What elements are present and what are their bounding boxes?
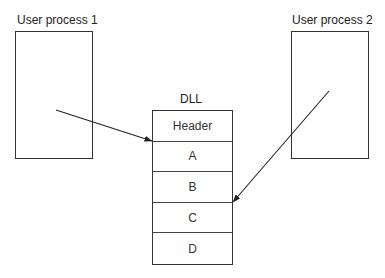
dll-title: DLL bbox=[180, 92, 202, 106]
dll-stack: Header A B C D bbox=[152, 110, 233, 265]
dll-cell-c: C bbox=[153, 203, 232, 234]
user-process-1-box bbox=[15, 31, 93, 159]
dll-cell-b: B bbox=[153, 172, 232, 203]
user-process-2-box bbox=[291, 31, 369, 159]
dll-cell-header: Header bbox=[153, 111, 232, 142]
dll-cell-a: A bbox=[153, 142, 232, 173]
user-process-2-label: User process 2 bbox=[292, 13, 373, 27]
dll-cell-d: D bbox=[153, 233, 232, 264]
user-process-1-label: User process 1 bbox=[17, 13, 98, 27]
